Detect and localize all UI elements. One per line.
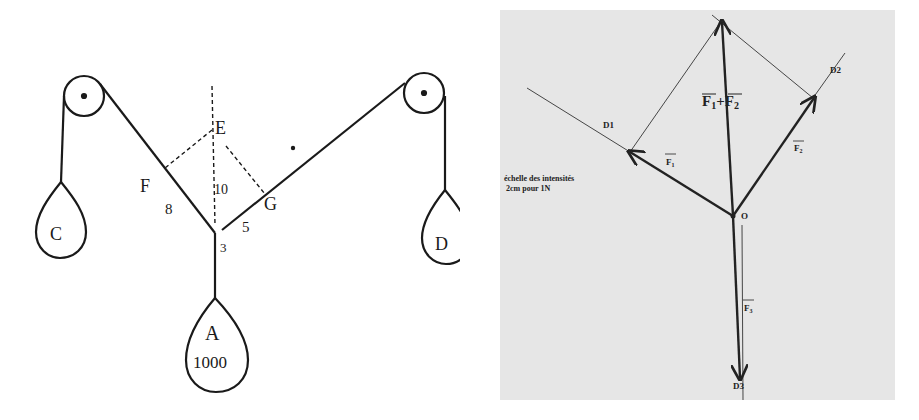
point-o [731,214,736,219]
vertical-dashed-line [212,86,215,225]
label-junction: 3 [220,240,227,255]
label-o: O [741,211,748,221]
rope-left [100,84,215,233]
left-pulley-axle [82,94,86,98]
svg-text:F1+F2: F1+F2 [702,93,739,111]
weight-c-label: C [50,224,62,244]
label-d1: D1 [603,120,614,130]
label-angle-left: 8 [165,201,173,217]
weight-a-label: A [205,322,220,344]
pulley-diagram: E F G 8 5 10 3 C D A 1000 [0,0,460,420]
weight-a [186,298,248,392]
dashed-eg [226,146,265,194]
scale-line-2: 2cm pour 1N [506,184,551,193]
dashed-ef [165,130,212,168]
ink-speck [291,146,295,150]
label-d2: D2 [830,65,841,75]
label-g: G [264,194,277,214]
rope-to-c [61,96,64,182]
force-vector-diagram: D1 D2 D3 O échelle des intensités 2cm po… [460,0,919,420]
weight-c [36,182,86,258]
force-svg: D1 D2 D3 O échelle des intensités 2cm po… [460,0,919,420]
rope-right [222,83,405,230]
label-f: F [140,176,150,196]
label-e: E [215,118,226,138]
label-d3: D3 [733,381,744,391]
label-angle-right: 5 [242,219,250,235]
weight-a-value: 1000 [193,353,227,372]
pulley-svg: E F G 8 5 10 3 C D A 1000 [0,0,460,420]
label-center-value: 10 [214,182,228,197]
weight-d-label: D [435,234,448,254]
scale-line-1: échelle des intensités [504,174,574,183]
right-pulley-axle [422,91,426,95]
